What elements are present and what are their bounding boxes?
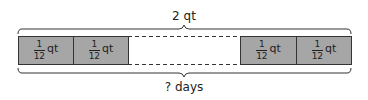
numerator: 1	[258, 40, 266, 49]
total-label: 2 qt	[164, 9, 204, 23]
numerator: 1	[35, 40, 43, 49]
count-label: ? days	[154, 80, 214, 94]
unit-label: qt	[47, 42, 58, 55]
segment-3: 1 12 qt	[240, 36, 297, 65]
segment-1: 1 12 qt	[18, 36, 74, 65]
bottom-brace	[18, 68, 351, 77]
denominator: 12	[312, 52, 323, 61]
unit-label: qt	[102, 42, 113, 55]
top-brace	[18, 25, 351, 34]
fraction: 1 12	[89, 40, 100, 61]
denominator: 12	[34, 52, 45, 61]
numerator: 1	[313, 40, 321, 49]
unit-label: qt	[270, 42, 281, 55]
fraction: 1 12	[34, 40, 45, 61]
segment-2: 1 12 qt	[73, 36, 129, 65]
unit-label: qt	[325, 42, 336, 55]
segment-4: 1 12 qt	[296, 36, 352, 65]
denominator: 12	[256, 52, 267, 61]
denominator: 12	[89, 52, 100, 61]
fraction: 1 12	[312, 40, 323, 61]
numerator: 1	[90, 40, 98, 49]
fraction: 1 12	[256, 40, 267, 61]
